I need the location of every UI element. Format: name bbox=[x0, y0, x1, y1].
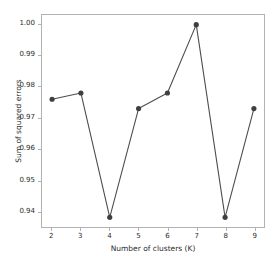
x-tick-mark bbox=[255, 228, 256, 231]
x-tick-label: 9 bbox=[245, 232, 265, 241]
data-point bbox=[223, 215, 228, 220]
data-point bbox=[107, 215, 112, 220]
data-point bbox=[251, 106, 256, 111]
x-tick-mark bbox=[51, 228, 52, 231]
x-tick-label: 5 bbox=[128, 232, 148, 241]
chart-figure: 0.940.950.960.970.980.991.00 23456789 Nu… bbox=[0, 0, 278, 271]
plot-area bbox=[41, 14, 265, 228]
x-tick-label: 6 bbox=[158, 232, 178, 241]
x-tick-label: 2 bbox=[41, 232, 61, 241]
x-tick-label: 4 bbox=[99, 232, 119, 241]
data-point bbox=[194, 22, 199, 27]
data-markers bbox=[50, 22, 257, 220]
line-chart-svg bbox=[42, 15, 264, 227]
x-tick-mark bbox=[80, 228, 81, 231]
data-line bbox=[52, 25, 254, 218]
x-tick-label: 7 bbox=[187, 232, 207, 241]
y-axis-label: Sum of squared errors bbox=[14, 14, 26, 228]
x-tick-mark bbox=[226, 228, 227, 231]
data-point bbox=[50, 97, 55, 102]
x-tick-mark bbox=[197, 228, 198, 231]
x-tick-mark bbox=[109, 228, 110, 231]
x-tick-mark bbox=[168, 228, 169, 231]
x-tick-label: 3 bbox=[70, 232, 90, 241]
data-point bbox=[78, 90, 83, 95]
x-axis-label: Number of clusters (K) bbox=[41, 244, 265, 253]
x-tick-mark bbox=[138, 228, 139, 231]
x-tick-label: 8 bbox=[216, 232, 236, 241]
data-point bbox=[165, 90, 170, 95]
data-point bbox=[136, 106, 141, 111]
